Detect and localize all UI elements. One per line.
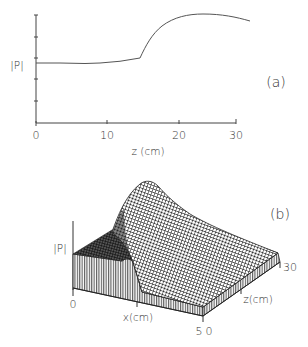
- panel-b-x-axis-label: x(cm): [123, 311, 153, 323]
- panel-b-surface-plot: |P| 0 x(cm) 5 0 z(cm) 30 (b): [53, 181, 297, 338]
- panel-b-x-start-label: 0: [70, 298, 77, 311]
- panel-a-x-axis-label: z (cm): [131, 145, 164, 157]
- panel-a-chart: 0 10 20 30 z (cm) |P| (a): [10, 14, 285, 157]
- panel-b-z-axis-label: z(cm): [243, 293, 273, 305]
- figure: 0 10 20 30 z (cm) |P| (a) |P| 0 x(c: [0, 0, 308, 347]
- panel-b-p-axis-label: |P|: [53, 242, 66, 255]
- panel-b-label: (b): [270, 206, 290, 222]
- panel-a-label: (a): [266, 74, 286, 90]
- panel-b-x-end-label: 5: [196, 325, 203, 338]
- panel-b-z-start-label: 0: [206, 325, 213, 338]
- panel-a-line-series: [36, 14, 250, 64]
- panel-a-x-tick-30: 30: [229, 129, 243, 142]
- panel-a-x-tick-0: 0: [33, 129, 40, 142]
- panel-a-x-tick-10: 10: [100, 129, 114, 142]
- panel-a-y-axis-label: |P|: [10, 59, 23, 72]
- panel-b-z-end-label: 30: [283, 261, 297, 274]
- panel-a-x-tick-20: 20: [172, 129, 186, 142]
